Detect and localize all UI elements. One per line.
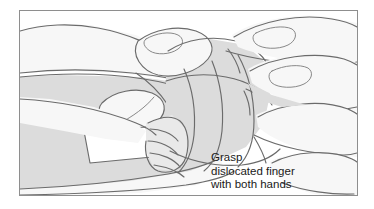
caption-backdrop (190, 143, 320, 191)
dislocated-finger-illustration: .ln { fill: none; stroke: #6b6b6b; strok… (20, 11, 357, 195)
figure-page: .ln { fill: none; stroke: #6b6b6b; strok… (0, 0, 374, 209)
figure-frame: .ln { fill: none; stroke: #6b6b6b; strok… (19, 10, 358, 196)
